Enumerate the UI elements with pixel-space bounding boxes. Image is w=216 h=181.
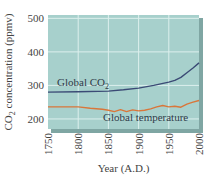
x-tick-label: 1950	[163, 133, 175, 156]
x-axis-label: Year (A.D.)	[98, 162, 150, 175]
y-tick-label: 400	[28, 46, 45, 58]
series-label-temperature: Global temperature	[103, 111, 188, 123]
x-tick-label: 2000	[193, 133, 205, 156]
x-tick-label: 1850	[102, 133, 114, 156]
x-tick-label: 1750	[42, 133, 54, 156]
y-axis-ticks: 200300400500	[28, 12, 45, 125]
y-tick-label: 500	[28, 12, 45, 24]
x-tick-label: 1800	[72, 133, 84, 156]
x-tick-label: 1900	[133, 133, 145, 156]
y-tick-label: 200	[28, 113, 45, 125]
x-axis-ticks: 175018001850190019502000	[42, 133, 205, 156]
y-axis-label: CO2 concentration (ppmv)	[2, 13, 17, 130]
co2-temperature-chart: 200300400500 175018001850190019502000 Ye…	[0, 0, 216, 181]
y-tick-label: 300	[28, 79, 45, 91]
